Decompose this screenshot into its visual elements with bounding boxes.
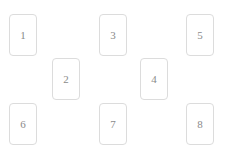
card-4[interactable]: 4 <box>140 58 168 100</box>
card-label: 2 <box>63 74 69 85</box>
card-label: 3 <box>110 30 116 41</box>
card-5[interactable]: 5 <box>186 14 214 56</box>
card-label: 5 <box>197 30 203 41</box>
card-1[interactable]: 1 <box>9 14 37 56</box>
card-3[interactable]: 3 <box>99 14 127 56</box>
card-6[interactable]: 6 <box>9 103 37 145</box>
card-surface: 1 2 3 4 5 6 7 8 <box>0 0 226 153</box>
card-7[interactable]: 7 <box>99 103 127 145</box>
card-label: 4 <box>151 74 157 85</box>
card-8[interactable]: 8 <box>186 103 214 145</box>
card-label: 6 <box>20 119 26 130</box>
card-label: 8 <box>197 119 203 130</box>
card-label: 1 <box>20 30 26 41</box>
card-2[interactable]: 2 <box>52 58 80 100</box>
card-label: 7 <box>110 119 116 130</box>
